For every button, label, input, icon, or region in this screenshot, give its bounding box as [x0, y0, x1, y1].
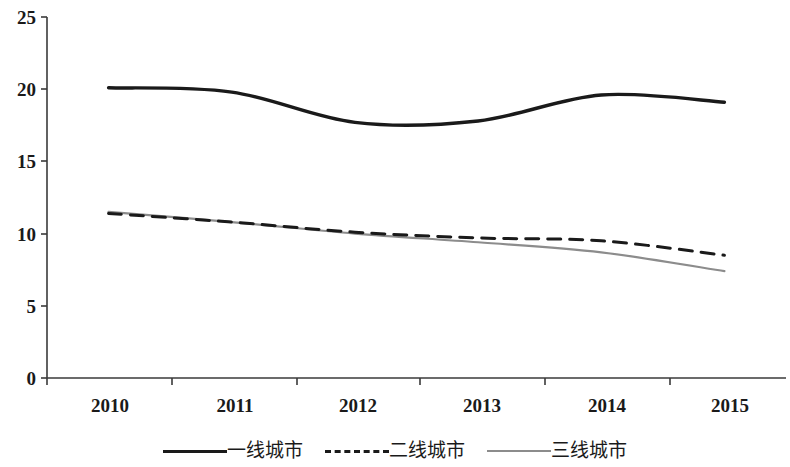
y-axis-label-15: 15	[2, 152, 36, 171]
y-axis-label-25: 25	[2, 8, 36, 27]
y-axis-label-5: 5	[2, 297, 36, 316]
x-axis-label-2011: 2011	[190, 396, 280, 415]
y-axis-ticks	[41, 17, 47, 378]
legend-item-first-tier: 一线城市	[163, 441, 303, 460]
solid-black-line-icon	[163, 443, 227, 457]
x-axis-label-2015: 2015	[685, 396, 775, 415]
x-axis-label-2012: 2012	[313, 396, 403, 415]
legend-label-second-tier: 二线城市	[389, 441, 465, 460]
axis-lines	[47, 17, 786, 378]
data-series-group	[109, 88, 725, 271]
legend-item-third-tier: 三线城市	[487, 441, 627, 460]
legend-label-third-tier: 三线城市	[551, 441, 627, 460]
series-line-first-tier	[109, 88, 725, 126]
solid-gray-line-icon	[487, 443, 551, 457]
y-axis-label-10: 10	[2, 225, 36, 244]
series-line-second-tier	[109, 213, 725, 255]
x-axis-label-2013: 2013	[437, 396, 527, 415]
dashed-black-line-icon	[325, 443, 389, 457]
chart-legend: 一线城市 二线城市 三线城市	[0, 436, 790, 464]
y-axis-label-20: 20	[2, 80, 36, 99]
y-axis-label-0: 0	[2, 369, 36, 388]
x-axis-label-2014: 2014	[562, 396, 652, 415]
legend-item-second-tier: 二线城市	[325, 441, 465, 460]
line-chart: 25 20 15 10 5 0 2010 2011 2012 2013 2014…	[0, 0, 790, 467]
x-axis-ticks	[47, 378, 670, 385]
x-axis-label-2010: 2010	[65, 396, 155, 415]
legend-label-first-tier: 一线城市	[227, 441, 303, 460]
